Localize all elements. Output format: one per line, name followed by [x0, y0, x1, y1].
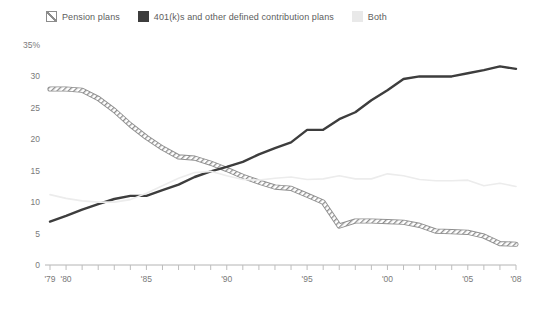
line-chart-plot: 05101520253035% '79'80'85'90'95'00'05'08: [0, 0, 534, 311]
y-tick-label: 35%: [23, 40, 40, 50]
y-axis: 05101520253035%: [23, 40, 40, 270]
x-tick-label: '80: [61, 274, 72, 284]
chart-container: Pension plans 401(k)s and other defined …: [0, 0, 534, 311]
series-line-401k-plans: [50, 66, 516, 221]
y-tick-label: 0: [35, 260, 40, 270]
series-line-pension-plans-outline: [50, 89, 516, 244]
y-tick-label: 30: [31, 71, 41, 81]
x-tick-label: '85: [141, 274, 152, 284]
x-tick-label: '05: [462, 274, 473, 284]
x-tick-label: '90: [221, 274, 232, 284]
x-tick-label: '79: [44, 274, 55, 284]
x-tick-label: '08: [510, 274, 521, 284]
y-tick-label: 25: [31, 103, 41, 113]
x-tick-label: '00: [382, 274, 393, 284]
y-tick-label: 20: [31, 134, 41, 144]
y-tick-label: 5: [35, 229, 40, 239]
y-tick-label: 10: [31, 197, 41, 207]
x-tick-label: '95: [302, 274, 313, 284]
y-tick-label: 15: [31, 166, 41, 176]
series-lines: [50, 66, 516, 244]
x-axis: '79'80'85'90'95'00'05'08: [44, 265, 521, 284]
